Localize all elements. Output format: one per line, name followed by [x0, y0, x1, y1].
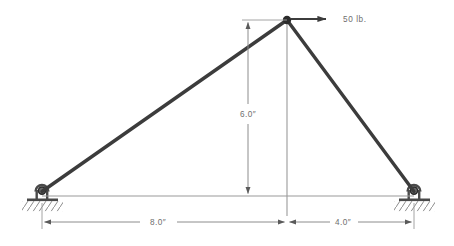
right-pin-support	[394, 185, 435, 211]
right-support-base-plate	[399, 199, 430, 202]
truss-diagram-canvas: 50 lb. 6.0″ 8.0″ 4.0″	[0, 0, 454, 246]
left-member	[42, 20, 287, 192]
right-support-ground-hatch	[394, 201, 435, 211]
left-support-base-plate	[27, 199, 58, 202]
left-pin-support	[22, 185, 63, 211]
span-dimensions: 8.0″ 4.0″	[42, 203, 414, 229]
right-member	[287, 20, 414, 192]
height-dimension-label: 6.0″	[240, 110, 256, 119]
left-support-ground-hatch	[22, 201, 63, 211]
right-span-dimension-label: 4.0″	[335, 218, 351, 227]
applied-load-label: 50 lb.	[343, 15, 367, 24]
left-span-dimension-label: 8.0″	[150, 218, 166, 227]
truss-diagram-svg: 50 lb. 6.0″ 8.0″ 4.0″	[0, 0, 454, 246]
